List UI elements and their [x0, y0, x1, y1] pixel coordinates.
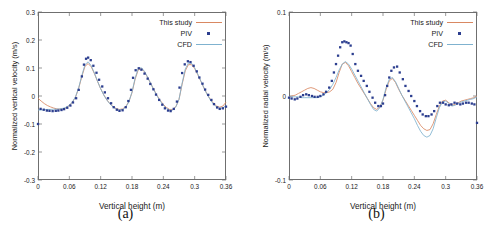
caption-a: (a) — [0, 206, 251, 222]
y-tick-label: -0.1 — [275, 177, 286, 184]
x-tick-label: 0.36 — [471, 183, 483, 190]
x-tick-label: 0.3 — [190, 183, 199, 190]
x-tick-label: 0.06 — [314, 183, 326, 190]
caption-b: (b) — [251, 206, 502, 222]
legend-marker-icon — [207, 32, 210, 35]
legend-item: This study — [126, 17, 222, 28]
legend-swatch-marker — [447, 29, 473, 38]
x-tick-label: 0.18 — [126, 183, 138, 190]
legend-item: PIV — [377, 28, 473, 39]
series-cfd — [38, 62, 226, 110]
legend-marker-icon — [458, 32, 461, 35]
legend-line-icon — [447, 44, 473, 45]
y-tick-label: 0.1 — [26, 65, 35, 72]
x-tick-label: 0.12 — [345, 183, 357, 190]
x-tick-label: 0.24 — [157, 183, 169, 190]
legend-item: CFD — [377, 39, 473, 50]
x-tick-label: 0.18 — [377, 183, 389, 190]
y-tick-label: 0 — [282, 93, 286, 100]
y-axis-label-b: Normalized radial velocity (m/s) — [259, 12, 273, 180]
x-tick-label: 0.12 — [94, 183, 106, 190]
legend-label: This study — [410, 18, 443, 27]
legend-label: This study — [159, 18, 192, 27]
legend-swatch-line — [447, 40, 473, 49]
legend-a: This studyPIVCFD — [126, 17, 222, 50]
plot-area-a: -0.3-0.2-0.100.10.20.3 00.060.120.180.24… — [38, 12, 226, 180]
legend-label: PIV — [180, 29, 192, 38]
plot-area-b: -0.100.1 00.060.120.180.240.30.36 Normal… — [289, 12, 477, 180]
y-tick-label: -0.1 — [24, 121, 35, 128]
y-tick-label: -0.3 — [24, 177, 35, 184]
y-axis-label-a: Normalized vertical velocity (m/s) — [8, 12, 22, 180]
x-tick-label: 0 — [36, 183, 40, 190]
legend-b: This studyPIVCFD — [377, 17, 473, 50]
legend-line-icon — [447, 22, 473, 23]
legend-swatch-marker — [196, 29, 222, 38]
legend-label: PIV — [431, 29, 443, 38]
series-cfd — [289, 62, 477, 138]
x-tick-label: 0.24 — [408, 183, 420, 190]
legend-line-icon — [196, 44, 222, 45]
legend-item: This study — [377, 17, 473, 28]
y-tick-label: 0.3 — [26, 9, 35, 16]
legend-swatch-line — [196, 40, 222, 49]
x-tick-label: 0.36 — [220, 183, 232, 190]
legend-item: PIV — [126, 28, 222, 39]
series-piv — [37, 56, 227, 125]
panel-a: -0.3-0.2-0.100.10.20.3 00.060.120.180.24… — [0, 0, 251, 245]
y-tick-label: 0.2 — [26, 37, 35, 44]
x-tick-label: 0.3 — [441, 183, 450, 190]
panel-b: -0.100.1 00.060.120.180.240.30.36 Normal… — [251, 0, 502, 245]
legend-swatch-line — [447, 18, 473, 27]
figure-container: -0.3-0.2-0.100.10.20.3 00.060.120.180.24… — [0, 0, 502, 245]
legend-swatch-line — [196, 18, 222, 27]
legend-item: CFD — [126, 39, 222, 50]
y-tick-label: 0.1 — [277, 9, 286, 16]
x-tick-label: 0.06 — [63, 183, 75, 190]
y-tick-label: 0 — [31, 93, 35, 100]
x-tick-label: 0 — [287, 183, 291, 190]
legend-line-icon — [196, 22, 222, 23]
legend-label: CFD — [428, 40, 443, 49]
legend-label: CFD — [177, 40, 192, 49]
y-tick-label: -0.2 — [24, 149, 35, 156]
series-piv — [288, 40, 478, 124]
